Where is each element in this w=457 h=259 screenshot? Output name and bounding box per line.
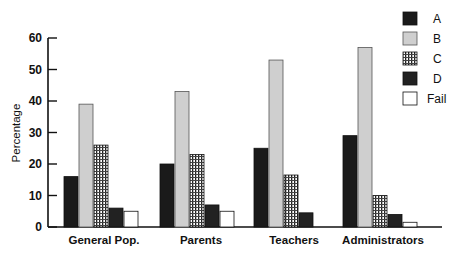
- category-label: Administrators: [342, 234, 424, 246]
- bar-a-3: [343, 136, 357, 227]
- bar-c-0: [94, 145, 108, 227]
- y-tick-label: 50: [29, 63, 43, 77]
- bar-fail-3: [403, 222, 417, 227]
- legend-label: Fail: [427, 92, 446, 106]
- bar-b-2: [269, 60, 283, 227]
- bar-c-2: [284, 175, 298, 227]
- y-tick-label: 0: [35, 220, 42, 234]
- legend-swatch-c: [403, 52, 417, 65]
- bar-d-1: [205, 205, 219, 227]
- bar-fail-0: [124, 211, 138, 227]
- bar-b-3: [358, 47, 372, 227]
- y-tick-label: 40: [29, 94, 43, 108]
- legend-swatch-a: [403, 12, 417, 25]
- bar-b-1: [175, 92, 189, 227]
- legend: ABCDFail: [403, 12, 446, 106]
- bar-b-0: [79, 104, 93, 227]
- bar-a-0: [64, 177, 78, 227]
- y-tick-label: 60: [29, 31, 43, 45]
- grouped-bar-chart: 0102030405060 General Pop.ParentsTeacher…: [0, 0, 457, 259]
- bar-fail-1: [220, 211, 234, 227]
- bar-d-2: [299, 213, 313, 227]
- legend-swatch-d: [403, 72, 417, 85]
- legend-label: A: [433, 12, 441, 26]
- bars: [64, 47, 417, 227]
- legend-label: B: [433, 32, 441, 46]
- bar-a-1: [160, 164, 174, 227]
- bar-d-0: [109, 208, 123, 227]
- bar-a-2: [254, 148, 268, 227]
- category-label: Teachers: [269, 234, 319, 246]
- legend-swatch-fail: [403, 92, 417, 105]
- legend-label: D: [433, 72, 442, 86]
- y-tick-label: 30: [29, 126, 43, 140]
- x-axis-labels: General Pop.ParentsTeachersAdministrator…: [69, 234, 424, 246]
- y-axis-label: Percentage: [10, 104, 22, 163]
- legend-swatch-b: [403, 32, 417, 45]
- bar-c-3: [373, 196, 387, 228]
- category-label: General Pop.: [69, 234, 140, 246]
- bar-d-3: [388, 214, 402, 227]
- y-tick-label: 20: [29, 157, 43, 171]
- legend-label: C: [433, 52, 442, 66]
- bar-c-1: [190, 155, 204, 227]
- category-label: Parents: [180, 234, 222, 246]
- y-tick-label: 10: [29, 189, 43, 203]
